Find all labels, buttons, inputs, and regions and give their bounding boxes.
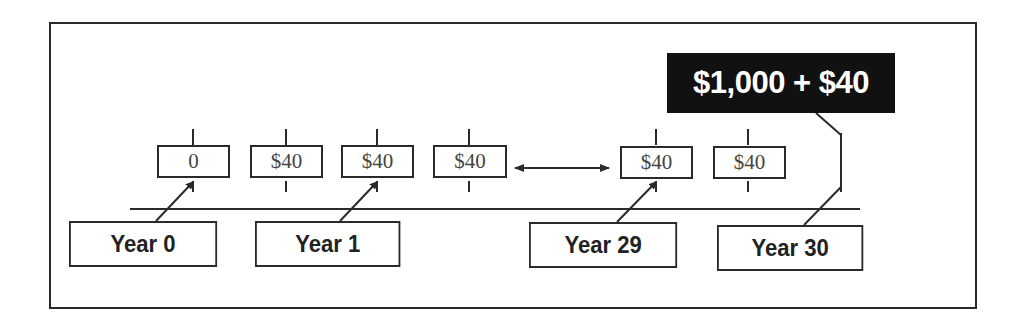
- cash-flow-year-30: $40: [713, 146, 786, 179]
- cash-flow-year-1: $40: [250, 145, 323, 178]
- final-payment-box: $1,000 + $40: [667, 53, 895, 113]
- year-1-label: Year 1: [255, 221, 400, 267]
- year-29-label: Year 29: [529, 222, 677, 268]
- cash-flow-year-3: $40: [433, 145, 507, 178]
- timeline-lines: [0, 0, 1026, 322]
- year-0-label: Year 0: [69, 221, 217, 267]
- cash-flow-year-29: $40: [620, 146, 693, 179]
- cash-flow-year-2: $40: [341, 145, 414, 178]
- cash-flow-year-0: 0: [157, 145, 230, 178]
- year-30-label: Year 30: [717, 225, 863, 271]
